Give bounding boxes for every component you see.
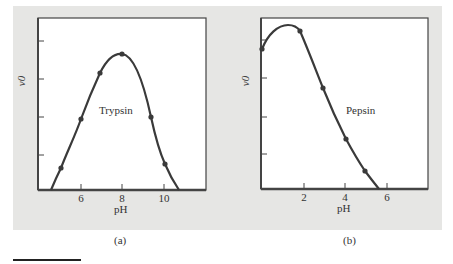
- svg-text:10: 10: [159, 192, 171, 204]
- svg-text:2: 2: [301, 191, 307, 203]
- plot-frame: [261, 18, 428, 189]
- x-axis-label-a: pH: [114, 203, 127, 215]
- trypsin-label: Trypsin: [99, 104, 133, 116]
- svg-text:6: 6: [384, 191, 390, 203]
- figure-plots: 6810 246: [0, 0, 453, 264]
- x-axis-label-b: pH: [337, 202, 350, 214]
- y-axis-label-b: v0: [239, 76, 251, 86]
- caption-a: (a): [114, 234, 126, 246]
- svg-text:6: 6: [78, 192, 84, 204]
- caption-b: (b): [343, 234, 356, 246]
- y-axis-label-a: v0: [15, 76, 27, 86]
- pepsin-label: Pepsin: [346, 104, 375, 116]
- pepsin-plot: 246: [259, 18, 428, 203]
- footnote-rule: [13, 259, 81, 261]
